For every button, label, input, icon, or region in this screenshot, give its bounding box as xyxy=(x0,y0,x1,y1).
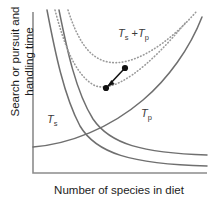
curve-label-pursuit-sub: p xyxy=(148,113,152,122)
chart-figure: Ts +Tp Ts Tp Search or pursuit and handl… xyxy=(0,0,212,202)
curve-label-search: Ts xyxy=(47,113,57,128)
curve-label-sum: Ts +Tp xyxy=(118,27,149,42)
y-axis-label: Search or pursuit and handling time xyxy=(9,0,36,142)
optimum-point-upper xyxy=(122,65,128,71)
curve-label-search-sub: s xyxy=(54,119,58,128)
optimum-point-lower xyxy=(103,85,109,91)
x-axis-label: Number of species in diet xyxy=(26,184,212,196)
curve-label-pursuit: Tp xyxy=(141,107,152,122)
curve-label-sum-sub-p: p xyxy=(145,33,149,42)
